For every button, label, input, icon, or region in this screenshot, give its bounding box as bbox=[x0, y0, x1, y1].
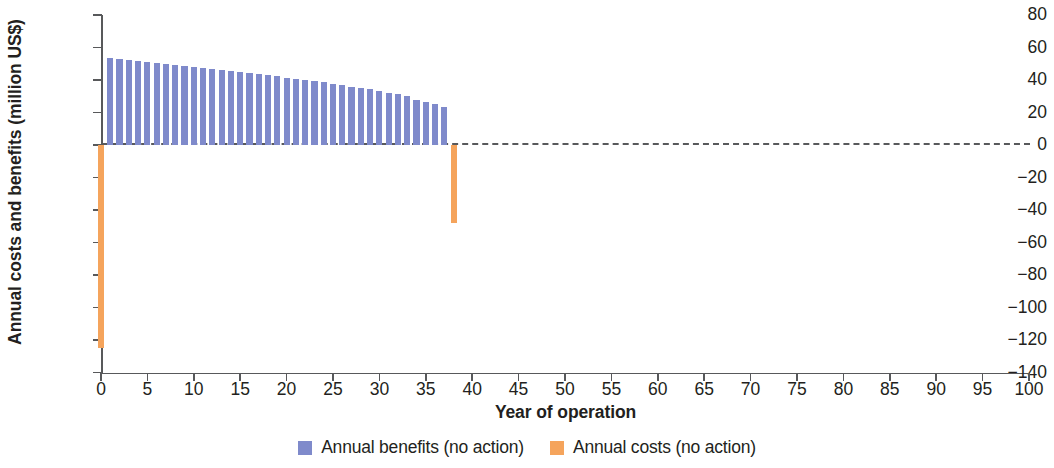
bar-benefit bbox=[116, 59, 122, 145]
bar-benefit bbox=[423, 102, 429, 145]
bar-benefit bbox=[432, 104, 438, 145]
y-axis-tick-label: 0 bbox=[968, 136, 1054, 154]
y-axis-tick-label: 60 bbox=[968, 39, 1054, 57]
y-axis-tick bbox=[93, 112, 102, 114]
bar-benefit bbox=[144, 62, 150, 145]
x-axis-tick-label: 100 bbox=[999, 381, 1054, 399]
bar-benefit bbox=[413, 100, 419, 146]
bar-benefit bbox=[395, 94, 401, 145]
bar-cost bbox=[451, 145, 457, 223]
bar-benefit bbox=[172, 65, 178, 145]
bar-benefit bbox=[191, 67, 197, 145]
y-axis-tick bbox=[93, 79, 102, 81]
bar-benefit bbox=[209, 69, 215, 145]
y-axis-tick-label: −20 bbox=[968, 169, 1054, 187]
y-axis-tick-label: 80 bbox=[968, 6, 1054, 24]
bar-benefit bbox=[107, 58, 113, 145]
legend-label: Annual benefits (no action) bbox=[321, 437, 524, 458]
bar-benefit bbox=[246, 73, 252, 145]
bar-benefit bbox=[330, 84, 336, 145]
chart-legend: Annual benefits (no action)Annual costs … bbox=[0, 437, 1054, 458]
bar-benefit bbox=[376, 91, 382, 145]
y-axis-tick-label: −60 bbox=[968, 234, 1054, 252]
bar-benefit bbox=[228, 71, 234, 145]
y-axis-tick-label: −80 bbox=[968, 266, 1054, 284]
bar-benefit bbox=[348, 87, 354, 146]
legend-item: Annual benefits (no action) bbox=[298, 437, 524, 458]
bar-benefit bbox=[367, 89, 373, 145]
bar-cost bbox=[98, 145, 104, 348]
y-axis-tick-label: −100 bbox=[968, 299, 1054, 317]
bar-benefit bbox=[302, 80, 308, 145]
bar-benefit bbox=[154, 63, 160, 145]
legend-item: Annual costs (no action) bbox=[550, 437, 756, 458]
bar-benefit bbox=[135, 61, 141, 145]
bar-benefit bbox=[441, 107, 447, 145]
chart-figure: Annual costs and benefits (million US$) … bbox=[0, 0, 1054, 468]
bar-benefit bbox=[386, 93, 392, 145]
bar-benefit bbox=[358, 88, 364, 145]
y-axis-tick-label: 40 bbox=[968, 71, 1054, 89]
bar-benefit bbox=[311, 81, 317, 145]
bar-benefit bbox=[404, 96, 410, 145]
y-axis-tick-label: −120 bbox=[968, 331, 1054, 349]
bar-benefit bbox=[237, 72, 243, 145]
bar-benefit bbox=[284, 78, 290, 145]
bar-benefit bbox=[274, 76, 280, 145]
x-axis-title: Year of operation bbox=[101, 402, 1030, 423]
plot-area: 806040200−20−40−60−80−100−120−1400510152… bbox=[0, 0, 1054, 468]
bar-benefit bbox=[163, 64, 169, 145]
legend-swatch-benefit bbox=[298, 441, 312, 455]
bar-benefit bbox=[265, 75, 271, 145]
y-axis-tick-label: −40 bbox=[968, 201, 1054, 219]
legend-label: Annual costs (no action) bbox=[573, 437, 756, 458]
bar-benefit bbox=[321, 82, 327, 145]
bar-benefit bbox=[293, 79, 299, 145]
bar-benefit bbox=[219, 70, 225, 145]
bar-benefit bbox=[126, 60, 132, 145]
bar-benefit bbox=[200, 68, 206, 145]
y-axis-tick bbox=[93, 47, 102, 49]
bar-benefit bbox=[181, 66, 187, 145]
bar-benefit bbox=[339, 85, 345, 145]
y-axis-tick-label: 20 bbox=[968, 104, 1054, 122]
legend-swatch-cost bbox=[550, 441, 564, 455]
y-axis-tick bbox=[93, 14, 102, 16]
bar-benefit bbox=[256, 74, 262, 145]
